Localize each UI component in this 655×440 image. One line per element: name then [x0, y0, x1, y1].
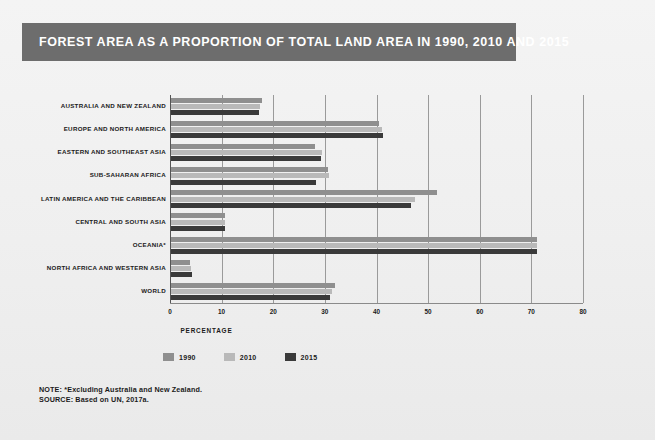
chart-title-bar: FOREST AREA AS A PROPORTION OF TOTAL LAN…	[22, 23, 516, 61]
bar-2015	[171, 180, 316, 185]
bar-2010	[171, 150, 322, 155]
bar-2015	[171, 226, 225, 231]
category-axis-labels: AUSTRALIA AND NEW ZEALANDEUROPE AND NORT…	[40, 95, 166, 303]
x-tick-label: 70	[528, 308, 535, 315]
bar-2015	[171, 110, 259, 115]
gridline	[531, 95, 532, 303]
bar-2010	[171, 104, 260, 109]
legend-swatch-icon	[163, 353, 174, 361]
x-tick-label: 20	[270, 308, 277, 315]
x-tick-label: 50	[425, 308, 432, 315]
bar-1990	[171, 190, 437, 195]
x-tick-label: 60	[476, 308, 483, 315]
category-label: NORTH AFRICA AND WESTERN ASIA	[40, 265, 166, 271]
bar-1990	[171, 260, 190, 265]
category-label: EUROPE AND NORTH AMERICA	[40, 126, 166, 132]
category-label: SUB-SAHARAN AFRICA	[40, 172, 166, 178]
bar-1990	[171, 237, 537, 242]
legend-item: 2015	[285, 353, 318, 361]
bar-1990	[171, 167, 328, 172]
bar-2010	[171, 266, 191, 271]
bar-1990	[171, 213, 225, 218]
x-tick-label: 0	[168, 308, 172, 315]
bar-2010	[171, 289, 332, 294]
bar-1990	[171, 121, 379, 126]
legend-item: 1990	[163, 353, 196, 361]
bar-2010	[171, 173, 329, 178]
legend-label: 2010	[240, 354, 257, 361]
gridline	[583, 95, 584, 303]
x-tick-label: 10	[218, 308, 225, 315]
plot-area: 01020304050607080	[170, 95, 583, 303]
bar-2010	[171, 127, 382, 132]
legend-label: 1990	[179, 354, 196, 361]
bar-2015	[171, 156, 321, 161]
x-tick-label: 30	[321, 308, 328, 315]
legend-item: 2010	[224, 353, 257, 361]
x-axis-title: PERCENTAGE	[0, 327, 413, 334]
bar-1990	[171, 98, 262, 103]
figure-container: FOREST AREA AS A PROPORTION OF TOTAL LAN…	[0, 0, 655, 440]
category-label: CENTRAL AND SOUTH ASIA	[40, 219, 166, 225]
bar-1990	[171, 283, 335, 288]
gridline	[480, 95, 481, 303]
bar-2010	[171, 197, 415, 202]
source-text: SOURCE: Based on UN, 2017a.	[39, 395, 202, 405]
bar-2010	[171, 220, 225, 225]
legend-label: 2015	[301, 354, 318, 361]
bar-2015	[171, 272, 192, 277]
category-label: OCEANIA*	[40, 242, 166, 248]
chart-title: FOREST AREA AS A PROPORTION OF TOTAL LAN…	[22, 35, 569, 49]
bar-2015	[171, 203, 411, 208]
category-label: LATIN AMERICA AND THE CARIBBEAN	[40, 196, 166, 202]
bar-2015	[171, 295, 330, 300]
bar-2015	[171, 133, 383, 138]
category-label: AUSTRALIA AND NEW ZEALAND	[40, 103, 166, 109]
footnotes: NOTE: *Excluding Australia and New Zeala…	[39, 385, 202, 406]
bar-2010	[171, 243, 537, 248]
legend-swatch-icon	[224, 353, 235, 361]
x-tick-label: 80	[579, 308, 586, 315]
bar-1990	[171, 144, 315, 149]
chart-legend: 199020102015	[163, 353, 345, 361]
x-axis-line	[170, 303, 583, 304]
note-text: NOTE: *Excluding Australia and New Zeala…	[39, 385, 202, 395]
gridline	[428, 95, 429, 303]
legend-swatch-icon	[285, 353, 296, 361]
plot-wrapper: AUSTRALIA AND NEW ZEALANDEUROPE AND NORT…	[0, 95, 655, 320]
category-label: WORLD	[40, 288, 166, 294]
category-label: EASTERN AND SOUTHEAST ASIA	[40, 149, 166, 155]
bar-2015	[171, 249, 537, 254]
x-tick-label: 40	[373, 308, 380, 315]
